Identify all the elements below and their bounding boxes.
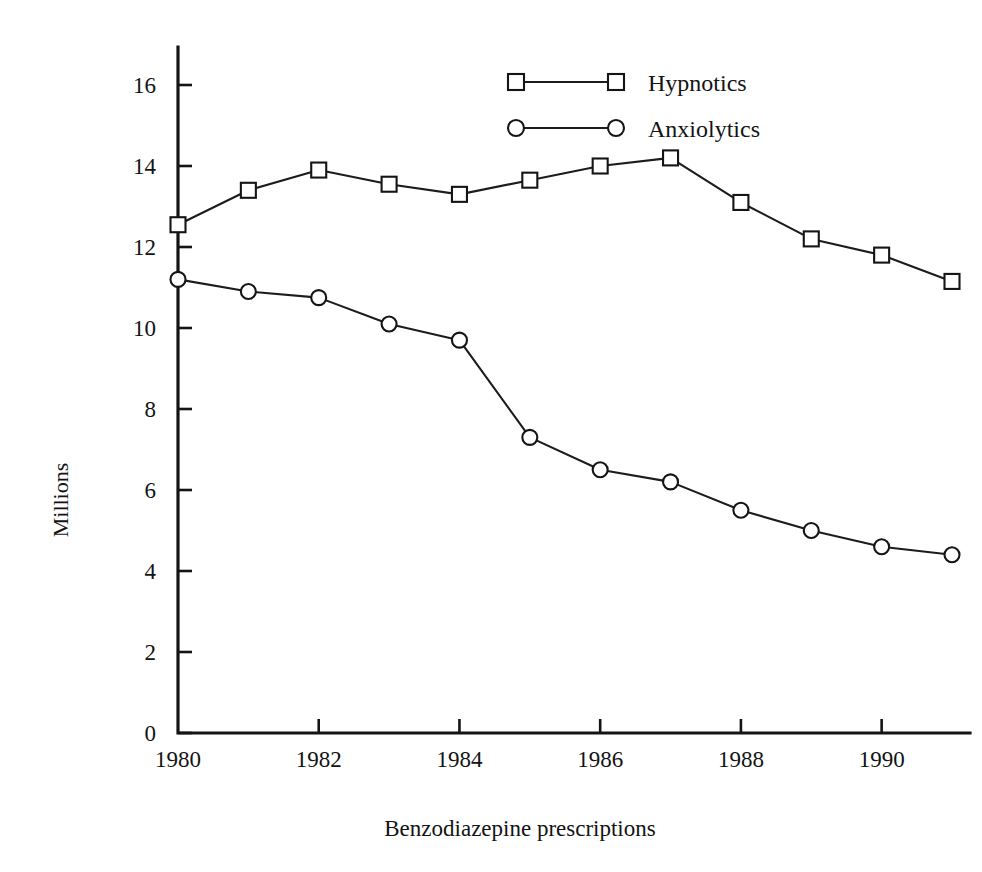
chart-legend: HypnoticsAnxiolytics: [508, 70, 760, 142]
y-tick-label: 10: [133, 316, 156, 341]
y-tick-label: 8: [145, 397, 157, 422]
y-tick-label: 14: [133, 154, 157, 179]
data-point-square: [804, 231, 819, 246]
y-axis-ticks: [178, 85, 192, 733]
x-tick-label: 1990: [859, 747, 905, 772]
data-point-circle: [733, 503, 748, 518]
y-tick-label: 16: [133, 73, 156, 98]
x-axis-tick-labels: 198019821984198619881990: [155, 747, 905, 772]
x-tick-label: 1986: [577, 747, 623, 772]
data-point-square: [241, 183, 256, 198]
data-point-circle: [171, 272, 186, 287]
axis-lines: [178, 47, 970, 733]
legend-entry-anxiolytics: Anxiolytics: [508, 116, 760, 142]
y-tick-label: 12: [133, 235, 156, 260]
data-point-circle: [241, 284, 256, 299]
x-tick-label: 1984: [436, 747, 483, 772]
data-point-square: [508, 74, 524, 90]
data-point-square: [945, 274, 960, 289]
legend-entry-hypnotics: Hypnotics: [508, 70, 747, 96]
data-point-circle: [522, 430, 537, 445]
data-point-square: [382, 177, 397, 192]
y-tick-label: 0: [145, 721, 157, 746]
series-line: [178, 158, 952, 282]
y-tick-label: 2: [145, 640, 157, 665]
data-point-circle: [593, 462, 608, 477]
data-point-circle: [945, 547, 960, 562]
x-tick-label: 1982: [296, 747, 342, 772]
legend-label: Hypnotics: [648, 70, 747, 96]
data-point-circle: [311, 290, 326, 305]
y-axis-tick-labels: 0246810121416: [133, 73, 157, 746]
series-hypnotics: [171, 150, 960, 289]
data-point-circle: [874, 539, 889, 554]
legend-label: Anxiolytics: [648, 116, 760, 142]
y-axis-title: Millions: [48, 463, 73, 538]
data-point-circle: [382, 316, 397, 331]
data-point-circle: [452, 333, 467, 348]
data-point-square: [874, 248, 889, 263]
line-chart: 0246810121416 198019821984198619881990 M…: [0, 0, 982, 872]
x-tick-label: 1980: [155, 747, 201, 772]
data-point-square: [452, 187, 467, 202]
data-point-circle: [804, 523, 819, 538]
data-point-square: [171, 217, 186, 232]
data-point-circle: [663, 474, 678, 489]
figure-caption: Benzodiazepine prescriptions: [384, 816, 655, 841]
data-point-circle: [608, 120, 624, 136]
data-point-square: [733, 195, 748, 210]
data-point-circle: [508, 120, 524, 136]
x-axis-ticks: [319, 719, 882, 733]
x-tick-label: 1988: [718, 747, 764, 772]
data-series-group: [171, 150, 960, 562]
data-point-square: [608, 74, 624, 90]
series-anxiolytics: [171, 272, 960, 562]
figure-container: 0246810121416 198019821984198619881990 M…: [0, 0, 982, 872]
y-tick-label: 6: [145, 478, 157, 503]
data-point-square: [663, 150, 678, 165]
axis-group: [178, 47, 970, 733]
data-point-square: [522, 173, 537, 188]
data-point-square: [311, 163, 326, 178]
y-tick-label: 4: [145, 559, 157, 584]
series-line: [178, 279, 952, 554]
data-point-square: [593, 159, 608, 174]
